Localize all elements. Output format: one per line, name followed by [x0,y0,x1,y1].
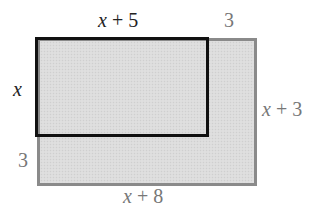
label-extra-height: 3 [18,150,28,170]
label-inner-height: x [13,79,22,99]
label-inner-width: x + 5 [98,10,138,30]
label-extra-width: 3 [224,10,234,30]
label-outer-height: x + 3 [262,99,302,119]
label-outer-width: x + 8 [123,186,163,206]
inner-rectangle [35,37,209,137]
diagram-canvas: x + 5 3 x 3 x + 3 x + 8 [0,0,323,213]
